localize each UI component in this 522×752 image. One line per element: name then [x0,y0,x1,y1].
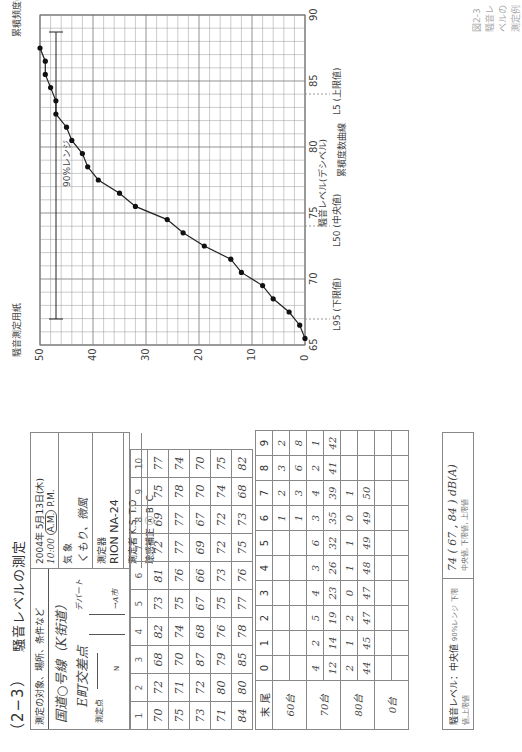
count-cell: 5 [307,606,324,631]
reading-cell: 70 [190,450,211,478]
date-value: 2004年 5月13日(木) [35,478,45,564]
cumulative-curve [40,48,305,338]
cumulative-cell: 8 [290,431,307,456]
reading-cell: 85 [232,646,253,674]
am-marker: A.M. [45,510,57,536]
reading-cell: 77 [169,506,190,534]
location-panel: 測定の対象、場所、条件など 国道○号線（K街道） E町交差点 測定点 デパート … [31,568,129,729]
cumulative-cell: 12 [324,656,341,681]
cumulative-cell: 44 [358,656,375,681]
digit-header: 5 [256,531,273,556]
chart-svg: 90%レンジ 657075808590 01020304050 騒音測定用紙 騒… [0,0,350,377]
count-cell: 6 [307,531,324,556]
result-sublabel: 中央値, 下限値, 上限値 [461,499,469,571]
reading-cell: 78 [232,618,253,646]
map-to-city: →A市 [109,589,120,609]
svg-text:20: 20 [193,348,204,361]
svg-text:70: 70 [308,272,319,285]
svg-text:65: 65 [308,338,319,351]
cumulative-cell: 35 [324,506,341,531]
cumulative-cell: 50 [358,481,375,506]
location-line1: 国道○号線（K街道） [49,569,72,729]
reading-cell: 70 [148,702,169,730]
instrument: 測定器 RION NA-24 [93,433,124,568]
y2-axis-label: 累積頻度(%) [11,0,22,37]
tally-count-row: 70台 4 2 5 4 3 6 3 4 2 1 [307,431,324,730]
reading-cell: 80 [232,674,253,702]
l5-label: L5 (上限値) [331,67,342,115]
reading-cell: 75 [232,534,253,562]
reading-cell: 73 [211,562,232,590]
section-title: 騒音レベルの測定 [11,540,26,652]
group-label: 80台 [341,681,375,730]
instrument-value: RION NA-24 [108,499,121,564]
count-cell: 3 [307,506,324,531]
reading-cell: 74 [169,618,190,646]
count-cell [273,531,290,556]
map-north: N [113,666,121,671]
reading-cell: 76 [169,562,190,590]
readings-row: 84 80 85 78 77 76 75 73 68 82 [232,450,253,730]
count-cell [341,456,358,481]
cumulative-cell: 47 [358,581,375,606]
reading-cell: 77 [232,590,253,618]
count-cell: 2 [273,481,290,506]
reading-cell: 66 [190,562,211,590]
count-cell: 1 [307,431,324,456]
reading-cell: 75 [211,450,232,478]
result-row: 騒音レベル：中央値 90%レンジ 下限値,上限値 74 ( 67 , 84 ) … [442,432,474,730]
section-number: （2−3） [9,671,27,738]
count-cell: 3 [307,556,324,581]
digit-header: 1 [256,631,273,656]
count-cell [341,431,358,456]
y-axis-ticks: 01020304050 [34,348,310,361]
group-label: 0台 [375,681,409,730]
cumulative-cell: 1 [290,506,307,531]
svg-text:90: 90 [308,8,319,21]
col-header: 3 [131,646,148,674]
reading-cell: 75 [211,590,232,618]
reading-cell: 71 [211,702,232,730]
readings-row: 70 72 68 82 73 81 72 69 75 77 [148,450,169,730]
map-road [89,614,125,615]
conditions-label: 測定の対象、場所、条件など [31,569,49,729]
map-road [89,634,125,635]
cumulative-cell [358,456,375,481]
time-value: 10:00 [46,538,56,564]
reading-cell: 74 [211,478,232,506]
group-label: 60台 [273,681,307,730]
weather: 気 象 くもり、微風 [59,433,93,568]
svg-text:30: 30 [140,348,151,361]
count-cell: 0 [341,581,358,606]
map-measure-point: 測定点 [93,699,104,723]
col-header: 9 [131,478,148,506]
col-header: 4 [131,618,148,646]
reading-cell: 72 [148,674,169,702]
digit-header: 9 [256,431,273,456]
cumulative-cell [358,431,375,456]
cumulative-cell: 14 [324,631,341,656]
page-title: （2−3） 騒音レベルの測定 [6,540,27,738]
cumulative-cell: 32 [324,531,341,556]
reading-cell: 75 [169,702,190,730]
data-points [37,45,307,341]
count-cell: 1 [341,481,358,506]
readings-row: 75 71 70 74 75 76 77 77 78 74 [169,450,190,730]
result-value-block: 74 ( 67 , 84 ) dB(A) 中央値, 下限値, 上限値 [446,464,469,571]
x-axis-label: 騒音レベル(デシベル) [317,139,328,227]
chart-grid [40,15,305,345]
cumulative-cell: 19 [324,606,341,631]
digit-header: 8 [256,456,273,481]
result-divider [443,578,473,579]
col-header: 1 [131,702,148,730]
count-cell: 1 [273,506,290,531]
reading-cell: 72 [148,534,169,562]
result-value: 74 ( 67 , 84 ) dB(A) [446,464,459,571]
map-arrow [97,653,98,689]
reading-cell: 80 [211,674,232,702]
cumulative-cell [290,556,307,581]
reading-cell: 73 [190,702,211,730]
reading-cell: 68 [190,618,211,646]
count-cell: 3 [273,456,290,481]
